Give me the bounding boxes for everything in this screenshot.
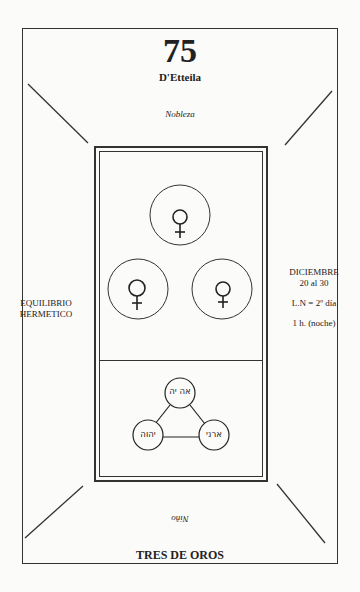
left-caption-line: EQUILIBRIO — [0, 298, 92, 309]
reversed-meaning: Niño — [0, 514, 360, 524]
left-caption-line: HERMETICO — [0, 309, 92, 320]
card-name: TRES DE OROS — [0, 548, 360, 563]
hebrew-name-right: ארני — [199, 429, 229, 439]
coin-left — [108, 259, 168, 319]
hebrew-name-top: אה יה — [165, 386, 195, 396]
venus-icon — [173, 210, 187, 238]
left-caption: EQUILIBRIO HERMETICO — [0, 298, 92, 320]
coin-right — [192, 259, 252, 319]
hebrew-name-left: יהוה — [133, 429, 163, 439]
venus-icon — [129, 280, 145, 310]
date-range: 20 al 30 — [268, 278, 360, 289]
right-caption: DICIEMBRE 20 al 30 L.N = 2º día 1 h. (no… — [268, 267, 360, 329]
venus-icon — [216, 282, 230, 308]
hour-label: 1 h. (noche) — [268, 318, 360, 329]
ln-label: L.N = 2º día — [268, 298, 360, 309]
month-label: DICIEMBRE — [268, 267, 360, 278]
